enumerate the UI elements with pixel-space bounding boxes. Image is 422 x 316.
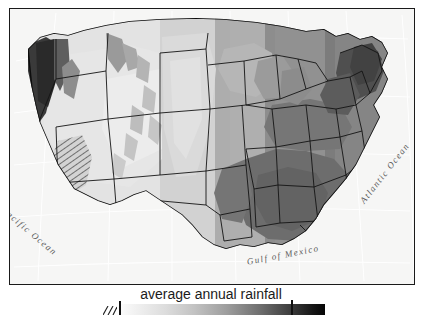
figure-caption: average annual rainfall [0, 286, 422, 302]
rainfall-figure: Pacific Ocean Gulf of Mexico Atlantic Oc… [0, 0, 422, 316]
legend-tick-low [119, 301, 121, 315]
map-panel[interactable]: Pacific Ocean Gulf of Mexico Atlantic Oc… [9, 8, 415, 285]
legend-tick-high [291, 300, 293, 315]
us-rainfall-map [10, 9, 414, 284]
rainfall-legend [103, 304, 325, 315]
rainfall-raster [10, 9, 414, 284]
legend-gradient-bar [121, 304, 325, 315]
legend-hatched-swatch [103, 306, 117, 315]
